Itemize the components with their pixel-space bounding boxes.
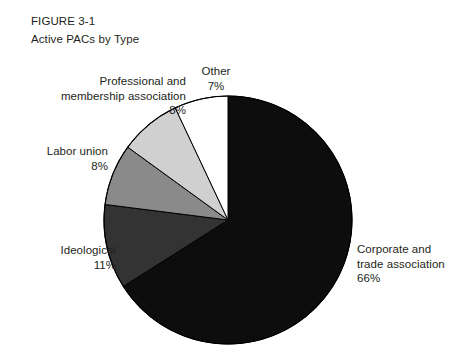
slice-label-ideological-name: Ideological <box>18 243 116 258</box>
slice-label-corporate-value: 66% <box>357 271 469 286</box>
slice-label-corporate: Corporate and trade association 66% <box>357 242 469 286</box>
slice-label-corporate-name-line1: Corporate and <box>357 242 469 257</box>
slice-label-other: Other 7% <box>180 64 252 93</box>
pie-slice-group <box>104 96 352 344</box>
slice-label-ideological: Ideological 11% <box>18 243 116 272</box>
slice-label-other-value: 7% <box>180 79 252 94</box>
figure-container: FIGURE 3-1 Active PACs by Type Other 7% … <box>0 0 469 354</box>
slice-label-professional-name-line1: Professional and <box>36 74 186 89</box>
slice-label-professional-name-line2: membership association <box>36 89 186 104</box>
slice-label-other-name: Other <box>180 64 252 79</box>
slice-label-corporate-name-line2: trade association <box>357 257 469 272</box>
slice-label-labor-union-value: 8% <box>8 159 108 174</box>
slice-label-professional: Professional and membership association … <box>36 74 186 118</box>
slice-label-labor-union-name: Labor union <box>8 144 108 159</box>
slice-label-labor-union: Labor union 8% <box>8 144 108 173</box>
pie-chart <box>0 0 469 354</box>
slice-label-professional-value: 8% <box>36 103 186 118</box>
slice-label-ideological-value: 11% <box>18 258 116 273</box>
